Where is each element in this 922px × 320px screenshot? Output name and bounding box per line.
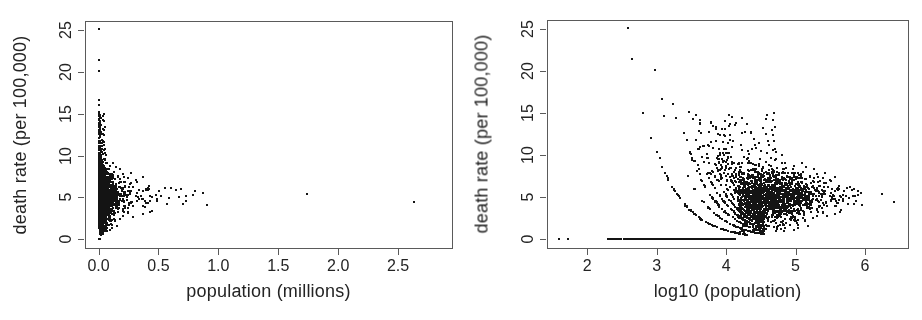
y-tick-label: 25 xyxy=(519,7,536,51)
x-tick-label: 6 xyxy=(861,257,870,275)
y-tick-label: 20 xyxy=(57,50,74,94)
x-tick-label: 0.0 xyxy=(87,257,109,275)
right-plot-xaxis-label: log10 (population) xyxy=(654,281,802,302)
y-tick-label: 15 xyxy=(57,92,74,136)
y-tick-label: 5 xyxy=(57,175,74,219)
left-plot-xaxis-label: population (millions) xyxy=(186,281,350,302)
x-tick-label: 3 xyxy=(652,257,661,275)
x-tick-label: 0.5 xyxy=(147,257,169,275)
x-tick-label: 5 xyxy=(791,257,800,275)
x-tick-label: 1.5 xyxy=(267,257,289,275)
y-tick-label: 25 xyxy=(57,8,74,52)
y-tick-label: 5 xyxy=(519,175,536,219)
x-tick-label: 1.0 xyxy=(207,257,229,275)
left-plot-yaxis-label: death rate (per 100,000) xyxy=(10,35,31,234)
right-plot-yaxis-label: death rate (per 100,000) xyxy=(472,35,493,234)
x-tick-label: 2.5 xyxy=(387,257,409,275)
scatter-plots-canvas xyxy=(0,0,922,320)
x-tick-label: 2 xyxy=(583,257,592,275)
x-tick-label: 2.0 xyxy=(327,257,349,275)
y-tick-label: 10 xyxy=(519,133,536,177)
y-tick-label: 0 xyxy=(57,217,74,261)
y-tick-label: 0 xyxy=(519,217,536,261)
y-tick-label: 15 xyxy=(519,91,536,135)
x-tick-label: 4 xyxy=(722,257,731,275)
death-rate-population-figure: population (millions) log10 (population)… xyxy=(0,0,922,320)
y-tick-label: 20 xyxy=(519,49,536,93)
y-tick-label: 10 xyxy=(57,134,74,178)
